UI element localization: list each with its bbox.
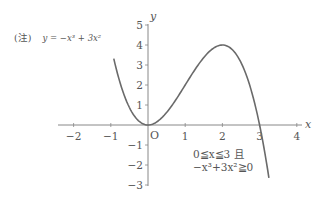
y-tick-label: 4 — [136, 39, 143, 51]
y-axis-label: y — [149, 10, 157, 23]
x-tick-label: 1 — [182, 130, 189, 142]
y-tick-label: 2 — [136, 79, 143, 91]
x-tick-label: 2 — [219, 130, 226, 142]
x-axis-label: x — [305, 118, 312, 131]
x-tick-label: 4 — [293, 130, 300, 142]
y-ticks: 54321−1−2−3 — [128, 19, 148, 191]
x-tick-label: −2 — [66, 130, 81, 142]
y-tick-label: −1 — [128, 139, 143, 151]
origin-label: O — [150, 129, 159, 142]
y-tick-label: 3 — [136, 59, 143, 71]
annotation-line-1: 0≦x≦3 且 — [193, 148, 253, 161]
note-prefix: (注) — [14, 32, 31, 43]
condition-annotation: 0≦x≦3 且 −x³+3x²≧0 — [193, 148, 253, 174]
y-tick-label: −2 — [128, 159, 143, 171]
equation-label: y = −x³ + 3x² — [42, 33, 101, 43]
y-tick-label: 5 — [136, 19, 143, 31]
y-tick-label: −3 — [128, 179, 143, 191]
equation-note: (注) y = −x³ + 3x² — [14, 30, 101, 44]
annotation-line-2: −x³+3x²≧0 — [193, 161, 253, 174]
x-tick-label: −1 — [103, 130, 118, 142]
x-ticks: −2−11234 — [66, 123, 301, 142]
y-tick-label: 1 — [136, 99, 143, 111]
